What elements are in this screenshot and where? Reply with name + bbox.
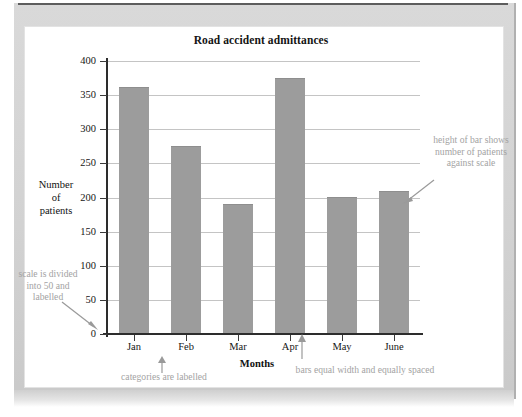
y-axis-tick — [100, 266, 107, 267]
gridline — [108, 163, 420, 164]
y-axis-title-line-3: patients — [20, 204, 92, 217]
annotation-scale: scale is divided into 50 and labelled — [14, 268, 82, 303]
plot-area — [108, 61, 420, 334]
x-axis-label-mar: Mar — [210, 341, 266, 352]
y-axis-label-300: 300 — [62, 124, 96, 135]
x-axis-label-may: May — [314, 341, 370, 352]
y-axis-tick — [100, 61, 107, 62]
x-axis-title: Months — [222, 358, 292, 369]
y-axis-tick — [100, 129, 107, 130]
x-axis-line — [103, 333, 423, 335]
gridline — [108, 198, 420, 199]
bar-feb — [171, 146, 200, 334]
x-axis-label-apr: Apr — [262, 341, 318, 352]
annotation-arrow-scale — [60, 300, 106, 334]
annotation-bar-width: bars equal width and equally spaced — [290, 364, 440, 376]
annotation-arrow-categories — [156, 356, 168, 374]
x-axis-label-june: June — [366, 341, 422, 352]
annotation-arrow-bar-height — [398, 178, 438, 206]
y-axis-label-150: 150 — [62, 227, 96, 238]
bar-may — [327, 197, 356, 334]
gridline — [108, 129, 420, 130]
annotation-bar-height: height of bar shows number of patients a… — [424, 134, 518, 169]
page-top-edge — [18, 3, 508, 5]
gridline — [108, 232, 420, 233]
gridline — [108, 61, 420, 62]
page-right-edge — [514, 3, 516, 399]
y-axis-label-350: 350 — [62, 90, 96, 101]
y-axis-tick — [100, 163, 107, 164]
y-axis-label-400: 400 — [62, 56, 96, 67]
figure-page: Road accident admittances Number of pati… — [0, 0, 522, 417]
y-axis-tick — [100, 95, 107, 96]
y-axis-title-line-1: Number — [20, 178, 92, 191]
chart-title: Road accident admittances — [0, 34, 522, 46]
bar-mar — [223, 204, 252, 334]
bar-june — [379, 191, 408, 334]
page-bottom-edge — [14, 390, 514, 407]
y-axis-tick — [100, 232, 107, 233]
gridline — [108, 95, 420, 96]
x-axis-label-jan: Jan — [106, 341, 162, 352]
gridline — [108, 266, 420, 267]
bar-jan — [119, 87, 148, 334]
annotation-arrow-bar-spacing — [296, 334, 308, 360]
y-axis-tick — [100, 334, 107, 335]
x-axis-label-feb: Feb — [158, 341, 214, 352]
bar-apr — [275, 78, 304, 334]
y-axis-label-200: 200 — [62, 193, 96, 204]
gridline — [108, 300, 420, 301]
y-axis-label-250: 250 — [62, 158, 96, 169]
y-axis-tick — [100, 198, 107, 199]
